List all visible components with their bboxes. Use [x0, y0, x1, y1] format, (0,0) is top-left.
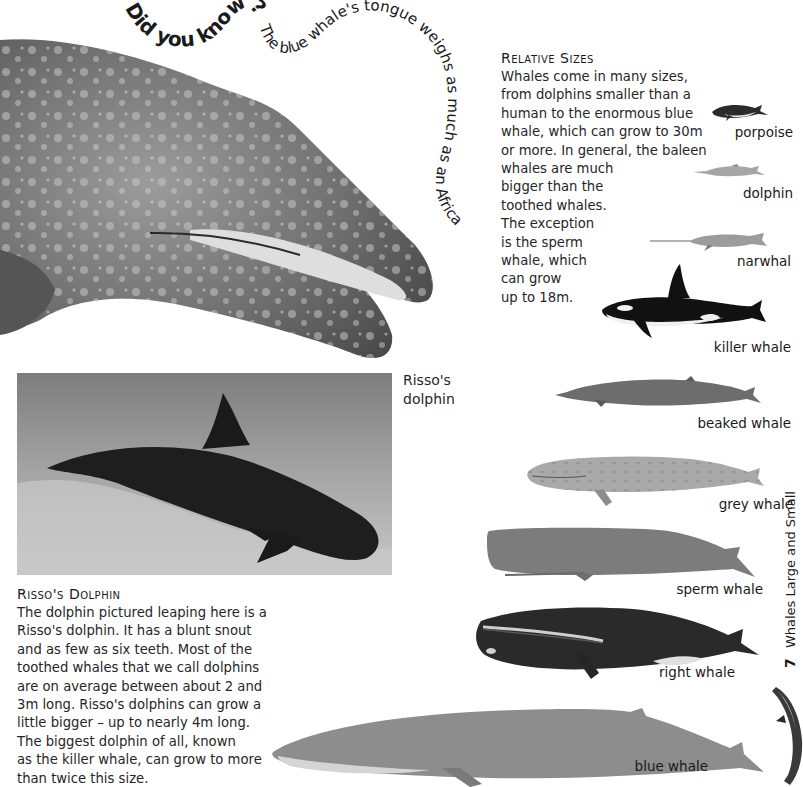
text-line: Whales come in many sizes, — [501, 68, 661, 86]
text-line: as the killer whale, can grow to more — [17, 751, 272, 769]
did-you-know-text: The blue whale's tongue weighs as much a… — [0, 0, 466, 229]
section-title: Whales Large and Small — [783, 491, 798, 648]
killer-whale-illustration — [600, 262, 768, 342]
text-line: is the sperm — [501, 234, 661, 252]
sperm-whale-illustration — [485, 525, 760, 587]
svg-text:Did you know? The blue w: Did you know? The blue whale's tongue we… — [0, 0, 466, 229]
text-line: The dolphin pictured leaping here is a — [17, 604, 272, 622]
rissos-dolphin-body: The dolphin pictured leaping here is a R… — [17, 604, 272, 787]
text-line: human to the enormous blue — [501, 105, 661, 123]
photo-caption-line-1: Risso's — [403, 371, 455, 390]
text-line: than twice this size. — [17, 770, 272, 787]
rissos-dolphin-photo — [17, 373, 392, 575]
dolphin-illustration — [693, 163, 765, 179]
photo-caption: Risso's dolphin — [403, 371, 455, 409]
text-line: bigger than the — [501, 178, 661, 196]
text-line: The biggest dolphin of all, known — [17, 733, 272, 751]
whale-label-beaked-whale: beaked whale — [697, 415, 791, 431]
whale-label-porpoise: porpoise — [735, 124, 793, 140]
text-line: Risso's dolphin. It has a blunt snout — [17, 622, 272, 640]
rissos-dolphin-silhouette — [17, 373, 392, 575]
whale-label-killer-whale: killer whale — [714, 339, 791, 355]
text-line: The exception — [501, 215, 661, 233]
text-line: whale, which can grow to 30m — [501, 123, 661, 141]
relative-sizes-heading: Relative Sizes — [501, 50, 661, 67]
text-line: toothed whales. — [501, 197, 661, 215]
porpoise-illustration — [710, 100, 770, 122]
leaping-dolphin-emblem-icon — [770, 685, 803, 787]
whale-label-sperm-whale: sperm whale — [676, 581, 763, 597]
running-header-vertical: 7 Whales Large and Small — [782, 491, 798, 668]
text-line: 3m long. Risso's dolphins can grow a — [17, 696, 272, 714]
whale-label-dolphin: dolphin — [743, 185, 793, 201]
page-number: 7 — [782, 658, 798, 668]
text-line: whales are much — [501, 160, 661, 178]
text-line: or more. In general, the baleen — [501, 142, 661, 160]
text-line: toothed whales that we call dolphins — [17, 659, 272, 677]
text-line: little bigger – up to nearly 4m long. — [17, 714, 272, 732]
text-line: from dolphins smaller than a — [501, 86, 661, 104]
did-you-know-lead: Did you know? — [120, 0, 271, 52]
text-line: and as few as six teeth. Most of the — [17, 641, 272, 659]
text-line: are on average between about 2 and — [17, 678, 272, 696]
narwhal-illustration — [650, 230, 768, 252]
beaked-whale-illustration — [555, 373, 765, 413]
rissos-dolphin-section: Risso's Dolphin The dolphin pictured lea… — [17, 586, 272, 787]
photo-caption-line-2: dolphin — [403, 390, 455, 409]
rissos-dolphin-heading: Risso's Dolphin — [17, 586, 272, 603]
whale-label-blue-whale: blue whale — [635, 758, 708, 774]
whale-label-right-whale: right whale — [659, 664, 735, 680]
